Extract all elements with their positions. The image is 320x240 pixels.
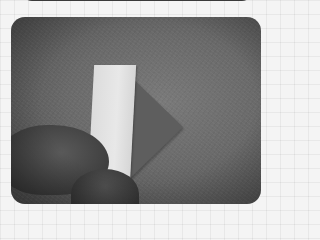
origami-step-photo [11, 17, 261, 204]
previous-photo-frame-edge [22, 0, 252, 1]
vignette [11, 17, 261, 204]
